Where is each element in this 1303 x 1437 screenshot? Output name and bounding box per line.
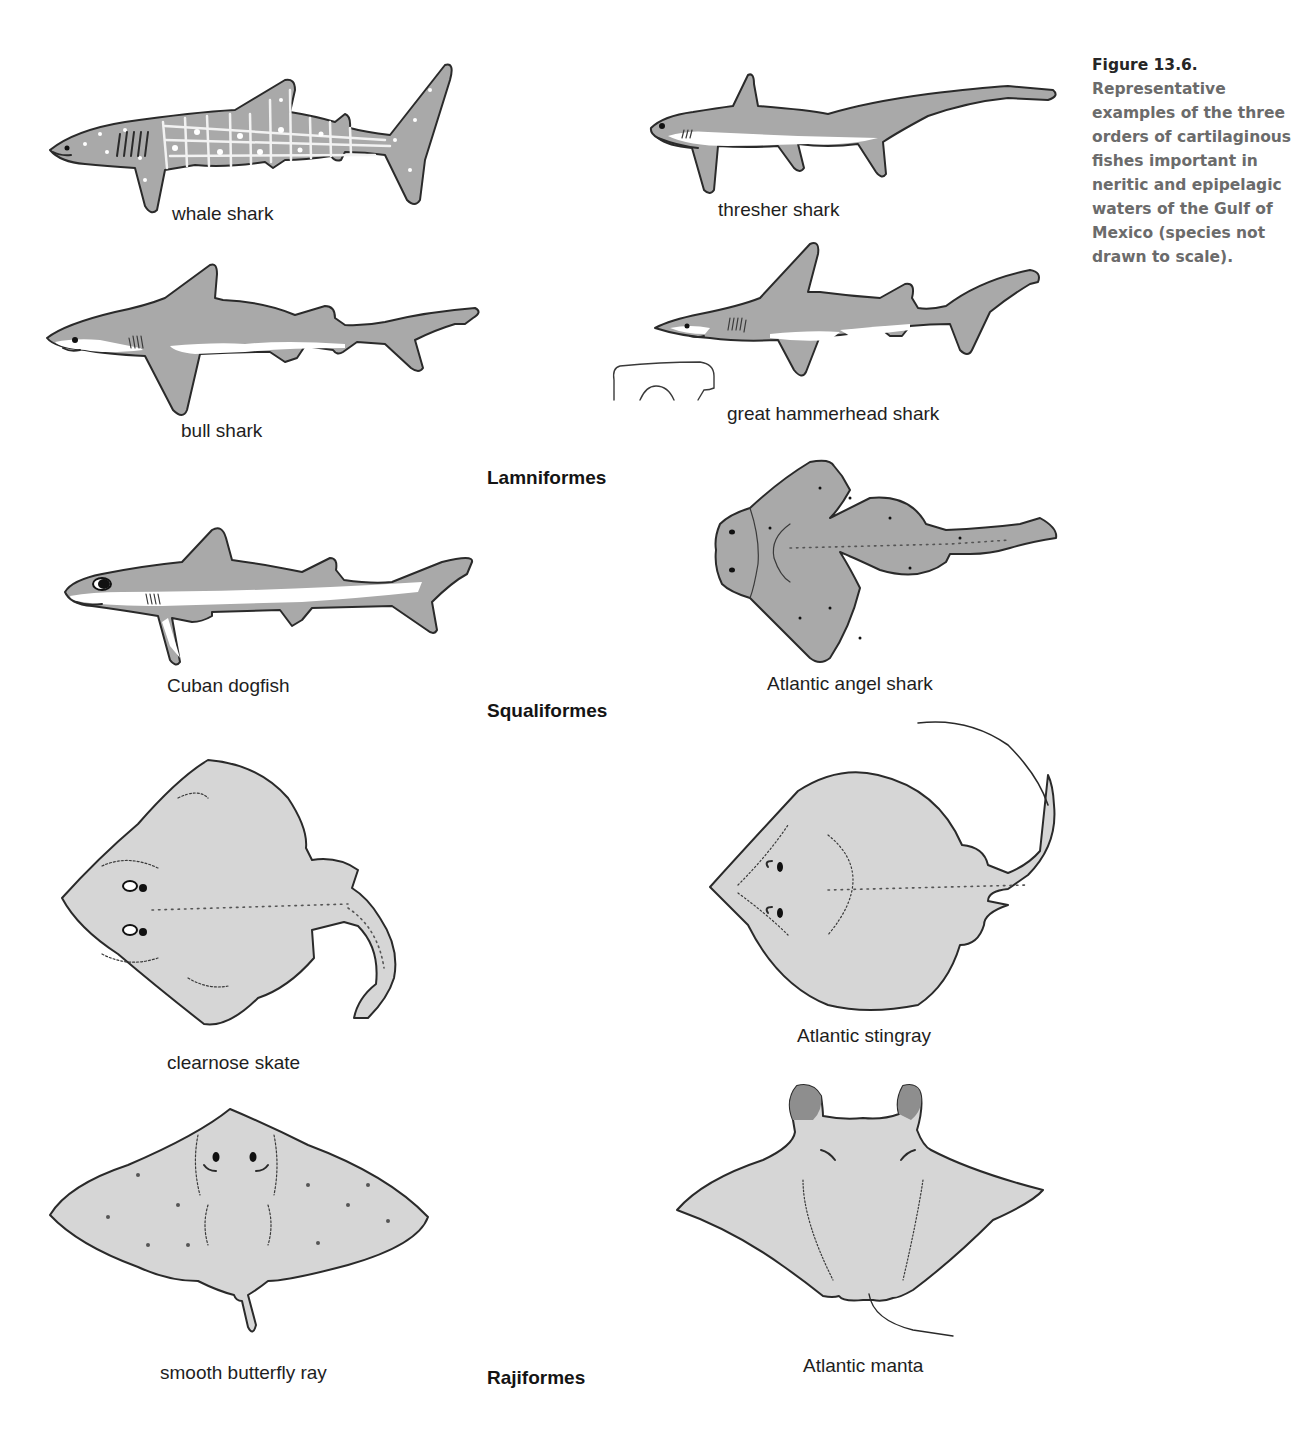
order-label-rajiformes: Rajiformes [487, 1367, 585, 1389]
species-label-great-hammerhead-shark: great hammerhead shark [727, 403, 939, 425]
figure-caption: Figure 13.6. Representative examples of … [1092, 53, 1303, 269]
species-label-thresher-shark: thresher shark [718, 199, 839, 221]
order-label-squaliformes: Squaliformes [487, 700, 607, 722]
species-label-smooth-butterfly-ray: smooth butterfly ray [160, 1362, 327, 1384]
species-label-cuban-dogfish: Cuban dogfish [167, 675, 290, 697]
atlantic-angel-shark-illustration [710, 458, 1065, 668]
species-label-clearnose-skate: clearnose skate [167, 1052, 300, 1074]
thresher-shark-illustration [648, 72, 1063, 202]
whale-shark-illustration [45, 60, 465, 220]
bull-shark-illustration [45, 260, 485, 425]
species-label-atlantic-stingray: Atlantic stingray [797, 1025, 931, 1047]
figure-number: Figure 13.6. [1092, 53, 1303, 77]
species-label-atlantic-manta: Atlantic manta [803, 1355, 923, 1377]
atlantic-manta-illustration [673, 1080, 1053, 1340]
great-hammerhead-shark-illustration [610, 240, 1060, 400]
species-label-whale-shark: whale shark [172, 203, 273, 225]
figure-caption-text: Representative examples of the three ord… [1092, 80, 1291, 266]
clearnose-skate-illustration [58, 758, 408, 1033]
species-label-bull-shark: bull shark [181, 420, 262, 442]
order-label-lamniformes: Lamniformes [487, 467, 606, 489]
species-label-atlantic-angel-shark: Atlantic angel shark [767, 673, 933, 695]
hammerhead-head-outline [614, 362, 714, 400]
atlantic-stingray-illustration [708, 715, 1068, 1015]
cuban-dogfish-illustration [62, 522, 482, 672]
smooth-butterfly-ray-illustration [48, 1105, 438, 1345]
